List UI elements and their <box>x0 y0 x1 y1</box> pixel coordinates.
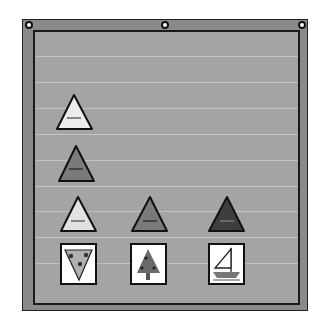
medium-triangle-row3[interactable] <box>132 197 167 231</box>
medium-triangle-row2[interactable] <box>59 146 94 181</box>
light-triangle-row1[interactable] <box>57 95 92 129</box>
chart-items-layer <box>0 0 324 329</box>
tree-card[interactable] <box>131 244 166 284</box>
pizza-card[interactable] <box>61 244 96 284</box>
sailboat-card[interactable] <box>209 244 244 284</box>
dark-triangle-row3[interactable] <box>209 197 244 231</box>
light-triangle-row3[interactable] <box>61 197 96 231</box>
